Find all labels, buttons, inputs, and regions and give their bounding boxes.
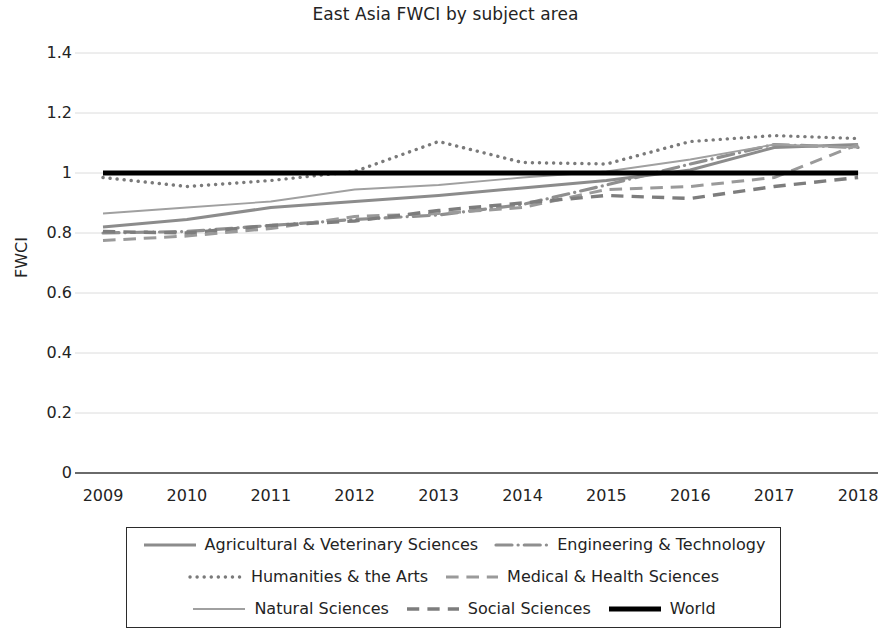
legend-row: Agricultural & Veterinary SciencesEngine… — [127, 528, 780, 560]
legend-item-label: Humanities & the Arts — [251, 567, 428, 586]
legend-swatch-icon — [188, 570, 244, 584]
legend-swatch — [405, 601, 461, 615]
legend-swatch — [444, 569, 500, 583]
legend-row: Natural SciencesSocial SciencesWorld — [127, 592, 780, 624]
legend-swatch — [142, 537, 198, 551]
chart-legend: Agricultural & Veterinary SciencesEngine… — [126, 527, 781, 628]
legend-swatch — [494, 537, 550, 551]
legend-swatch-icon — [494, 538, 550, 552]
legend-item[interactable]: World — [607, 599, 716, 618]
legend-swatch-icon — [142, 538, 198, 552]
legend-item[interactable]: Engineering & Technology — [494, 535, 765, 554]
legend-swatch — [607, 601, 663, 615]
legend-swatch-icon — [405, 602, 461, 616]
series-line — [103, 136, 858, 187]
legend-item[interactable]: Medical & Health Sciences — [444, 567, 719, 586]
series-line — [103, 145, 858, 234]
legend-row: Humanities & the ArtsMedical & Health Sc… — [127, 560, 780, 592]
legend-item-label: World — [670, 599, 716, 618]
legend-item[interactable]: Agricultural & Veterinary Sciences — [142, 535, 479, 554]
legend-swatch — [188, 569, 244, 583]
legend-item[interactable]: Social Sciences — [405, 599, 591, 618]
chart-figure: East Asia FWCI by subject area FWCI 1.41… — [0, 0, 891, 634]
legend-item-label: Social Sciences — [468, 599, 591, 618]
legend-item-label: Agricultural & Veterinary Sciences — [205, 535, 479, 554]
legend-item[interactable]: Natural Sciences — [191, 599, 388, 618]
legend-swatch — [191, 601, 247, 615]
legend-item-label: Engineering & Technology — [557, 535, 765, 554]
legend-swatch-icon — [191, 602, 247, 616]
legend-swatch-icon — [607, 602, 663, 616]
legend-item-label: Natural Sciences — [254, 599, 388, 618]
legend-item-label: Medical & Health Sciences — [507, 567, 719, 586]
legend-item[interactable]: Humanities & the Arts — [188, 567, 428, 586]
legend-swatch-icon — [444, 570, 500, 584]
